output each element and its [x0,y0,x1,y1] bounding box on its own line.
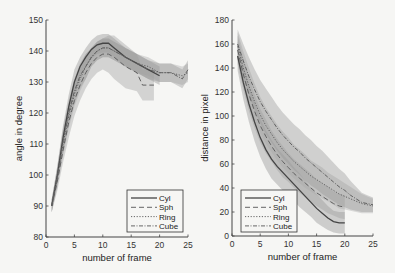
y-tick-label: 80 [220,135,230,145]
y-tick-label: 180 [215,15,229,25]
legend-label-ring: Ring [273,213,289,222]
x-tick-label: 10 [98,240,108,250]
x-tick-label: 25 [368,239,378,249]
legend-label-cyl: Cyl [159,194,171,203]
x-tick-label: 0 [44,240,49,250]
y-tick-label: 40 [220,183,230,193]
x-tick-label: 20 [155,240,165,250]
legend-label-cube: Cube [273,222,293,231]
x-tick-label: 0 [230,239,235,249]
y-tick-label: 0 [224,231,229,241]
y-tick-label: 100 [29,170,43,180]
y-tick-label: 90 [34,201,44,211]
y-tick-label: 130 [29,77,43,87]
x-axis-label: number of frame [268,251,338,262]
legend-label-sph: Sph [159,203,173,212]
y-axis-label: angle in degree [13,96,24,162]
y-tick-label: 150 [29,15,43,25]
legend: CylSphRingCube [241,190,297,232]
legend-label-cyl: Cyl [273,194,285,203]
error-bands [52,34,188,212]
angle-plot: 05101520258090100110120130140150number o… [13,15,193,263]
x-tick-label: 20 [340,239,350,249]
y-tick-label: 140 [215,63,229,73]
y-tick-label: 60 [220,159,230,169]
figure: 05101520258090100110120130140150number o… [0,0,395,273]
y-tick-label: 120 [215,87,229,97]
distance-plot: 0510152025020406080100120140160180number… [199,15,378,262]
y-tick-label: 100 [215,111,229,121]
x-axis-label: number of frame [82,252,152,263]
x-tick-label: 15 [126,240,136,250]
y-tick-label: 20 [220,207,230,217]
y-axis-label: distance in pixel [199,94,210,162]
legend-label-cube: Cube [159,222,179,231]
x-tick-label: 5 [258,239,263,249]
y-tick-label: 120 [29,108,43,118]
legend-label-ring: Ring [159,213,175,222]
x-tick-label: 5 [72,240,77,250]
x-tick-label: 10 [284,239,294,249]
y-tick-label: 160 [215,39,229,49]
legend: CylSphRingCube [127,190,183,232]
legend-label-sph: Sph [273,203,287,212]
y-tick-label: 80 [34,232,44,242]
y-tick-label: 140 [29,46,43,56]
y-tick-label: 110 [29,139,43,149]
x-tick-label: 25 [183,240,193,250]
x-tick-label: 15 [312,239,322,249]
